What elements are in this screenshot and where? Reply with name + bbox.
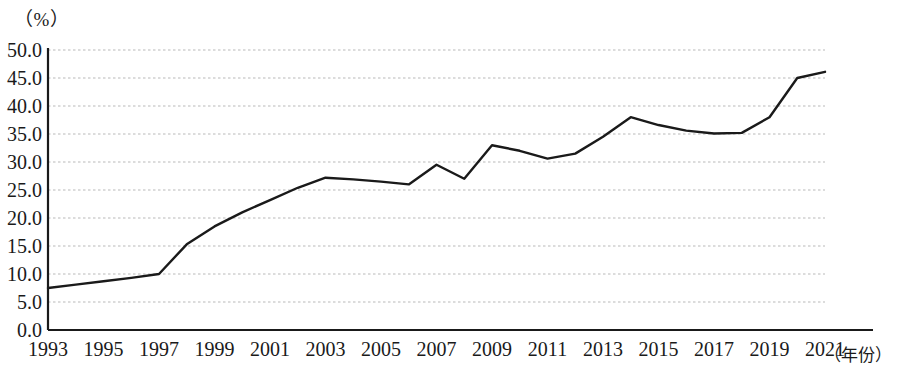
axis-group xyxy=(48,48,873,330)
x-axis-title: （年份） xyxy=(824,341,892,366)
chart-plot-area xyxy=(0,0,899,369)
line-chart: （%） 0.05.010.015.020.025.030.035.040.045… xyxy=(0,0,899,369)
gridline-group xyxy=(48,50,825,302)
data-series-line xyxy=(48,72,825,288)
